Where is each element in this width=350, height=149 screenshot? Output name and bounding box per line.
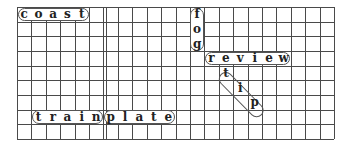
- grid-line-vertical: [276, 7, 277, 139]
- grid-letter: o: [32, 8, 44, 21]
- grid-line-vertical: [233, 7, 234, 139]
- grid-line-horizontal: [17, 95, 334, 96]
- grid-letter: s: [61, 8, 73, 21]
- grid-line-horizontal: [17, 22, 334, 23]
- grid-line-vertical: [248, 7, 249, 139]
- grid-line-vertical: [305, 7, 306, 139]
- grid-line-vertical: [204, 7, 205, 139]
- grid-letter: c: [18, 8, 30, 21]
- grid-line-vertical: [320, 7, 321, 139]
- grid-letter: t: [148, 111, 160, 124]
- grid-line-vertical: [291, 7, 292, 139]
- grid-letter: a: [47, 8, 59, 21]
- grid-letter: r: [47, 111, 59, 124]
- grid-letter: t: [76, 8, 88, 21]
- grid-letter: n: [90, 111, 102, 124]
- grid-line-horizontal: [17, 66, 334, 67]
- grid-letter: i: [249, 52, 261, 65]
- grid-letter: a: [133, 111, 145, 124]
- grid-line-vertical: [262, 7, 263, 139]
- grid-letter: e: [162, 111, 174, 124]
- grid-line-horizontal: [17, 80, 334, 81]
- grid-letter: i: [234, 81, 246, 94]
- grid-letter: e: [220, 52, 232, 65]
- word-grid: coastfogreviewtiptrainplate: [17, 7, 334, 139]
- grid-letter: p: [104, 111, 116, 124]
- grid-letter: l: [119, 111, 131, 124]
- grid-letter: v: [234, 52, 246, 65]
- grid-letter: w: [277, 52, 289, 65]
- grid-line-horizontal: [17, 36, 334, 37]
- grid-line-vertical: [334, 7, 335, 139]
- grid-letter: e: [263, 52, 275, 65]
- grid-line-horizontal: [17, 124, 334, 125]
- grid-letter: t: [32, 111, 44, 124]
- grid-line-horizontal: [17, 139, 334, 140]
- grid-letter: g: [191, 37, 203, 50]
- grid-line-vertical: [17, 7, 18, 139]
- grid-letter: t: [220, 67, 232, 80]
- grid-letter: p: [249, 96, 261, 109]
- grid-letter: i: [76, 111, 88, 124]
- grid-letter: o: [191, 23, 203, 36]
- grid-letter: r: [205, 52, 217, 65]
- grid-line-vertical: [176, 7, 177, 139]
- grid-letter: a: [61, 111, 73, 124]
- grid-letter: f: [191, 8, 203, 21]
